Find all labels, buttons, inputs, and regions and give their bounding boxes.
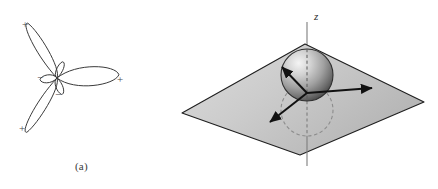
positive-lobe-2 [57,67,119,86]
negative-sign-5: − [37,71,43,83]
lobe-sign-group: +++−− [19,18,123,134]
sphere-plane-svg: z [160,0,438,189]
panel-b: z (b) [160,0,438,189]
panel-a-caption: (a) [75,160,88,172]
figure-container: +++−− (a) [0,0,438,189]
negative-lobe-1 [55,62,64,78]
positive-sign-1: + [22,18,28,30]
negative-sign-6: − [55,88,61,100]
positive-sign-2: + [117,73,123,85]
positive-lobe-3 [25,78,57,132]
z-axis-label: z [313,10,319,22]
positive-sign-3: + [19,122,25,134]
